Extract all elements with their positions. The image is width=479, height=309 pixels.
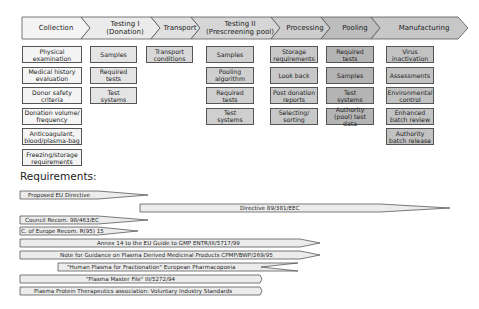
collection-item: Freezing/storagerequirements: [22, 149, 82, 166]
requirement-bar: "Human Plasma for Fractionation" Europea…: [58, 263, 263, 272]
pooling-item: Authority(pool) test data: [326, 108, 374, 125]
pooling-item: Requiredtests: [326, 46, 374, 63]
requirement-bar: Plasma Protein Therapeutics association:…: [20, 287, 264, 296]
testing-2-item: Samples: [206, 46, 254, 63]
requirement-label: Plasma Protein Therapeutics association:…: [34, 287, 232, 295]
pooling-item: Samples: [326, 67, 374, 84]
manufacturing-item: Environmentalcontrol: [386, 87, 434, 104]
testing-2-item: Testsystems: [206, 108, 254, 125]
collection-item: Donation volume/frequency: [22, 108, 82, 125]
requirement-label: "Human Plasma for Fractionation" Europea…: [67, 263, 235, 271]
requirements-title: Requirements:: [20, 170, 97, 182]
requirement-bar: Annex 14 to the EU Guide to GMP ENTR/III…: [20, 239, 322, 248]
processing-item: Selecting/sorting: [270, 108, 318, 125]
requirement-label: Proposed EU Directive: [28, 191, 90, 199]
requirement-bar: Proposed EU Directive: [20, 191, 150, 200]
stage-manufacturing-label: Manufacturing: [380, 24, 468, 32]
testing-1-item: Samples: [90, 46, 137, 63]
transport-item: Transportconditions: [146, 46, 193, 63]
requirement-bar: Note for Guidance on Plasma Derived Medi…: [20, 251, 322, 260]
requirement-label: Annex 14 to the EU Guide to GMP ENTR/III…: [97, 239, 240, 247]
processing-item: Look back: [270, 67, 318, 84]
manufacturing-item: Assessments: [386, 67, 434, 84]
processing-item: Post donationreports: [270, 87, 318, 104]
stage-processing-label: Processing: [280, 24, 330, 32]
pooling-item: Testsystems: [326, 87, 374, 104]
requirement-label: Note for Guidance on Plasma Derived Medi…: [60, 251, 273, 259]
manufacturing-item: Virusinactivation: [386, 46, 434, 63]
requirement-bar: Directive 89/381/EEC: [140, 204, 452, 213]
requirement-bar: "Plasma Master File" III/5272/94: [20, 275, 264, 284]
testing-1-item: Testsystems: [90, 87, 137, 104]
stage-testing-1-label: Testing I(Donation): [90, 20, 160, 36]
requirement-label: Directive 89/381/EEC: [240, 204, 299, 212]
testing-2-item: Poolingalgorithm: [206, 67, 254, 84]
processing-item: Storagerequirements: [270, 46, 318, 63]
testing-2-item: Requiredtests: [206, 87, 254, 104]
collection-item: Physicalexamination: [22, 46, 82, 63]
requirement-label: "Plasma Master File" III/5272/94: [86, 275, 175, 283]
stage-collection-label: Collection: [22, 24, 90, 32]
requirement-label: C. of Europe Recom. R(95) 15: [21, 227, 104, 235]
stage-pooling-label: Pooling: [330, 24, 380, 32]
manufacturing-item: Authoritybatch release: [386, 128, 434, 145]
manufacturing-item: Enhancedbatch review: [386, 108, 434, 125]
collection-item: Donor safetycriteria: [22, 87, 82, 104]
collection-item: Anticoagulant,blood/plasma-bag: [22, 128, 82, 145]
requirement-label: Council Recom. 98/463/EC: [25, 216, 99, 224]
stage-transport-label: Transport: [160, 24, 200, 32]
collection-item: Medical historyevaluation: [22, 67, 82, 84]
requirement-bar: C. of Europe Recom. R(95) 15: [20, 227, 140, 236]
stage-testing-2-label: Testing II(Prescreening pool): [200, 20, 280, 36]
requirement-bar: Council Recom. 98/463/EC: [20, 216, 150, 225]
testing-1-item: Requiredtests: [90, 67, 137, 84]
